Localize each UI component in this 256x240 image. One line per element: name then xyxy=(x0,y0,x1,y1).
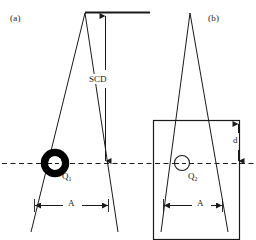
q2-point-label: Q2 xyxy=(188,171,198,181)
panel-label-a: (a) xyxy=(10,13,21,23)
panel-label-b: (b) xyxy=(208,13,219,23)
scd-dimension-label: SCD xyxy=(88,74,108,84)
q2-symbol: Q xyxy=(188,171,195,181)
beam-edge-left-b xyxy=(161,13,190,232)
figure-canvas: (a) (b) SCD d A A Q1 Q2 xyxy=(0,0,256,240)
beam-edge-right-a xyxy=(85,13,118,232)
diagram-svg xyxy=(0,0,256,240)
field-size-label-b: A xyxy=(196,198,205,208)
q1-symbol: Q xyxy=(62,171,69,181)
q1-subscript: 1 xyxy=(69,176,72,182)
q1-point-label: Q1 xyxy=(62,171,72,181)
field-size-label-a: A xyxy=(67,198,76,208)
depth-dimension-label: d xyxy=(232,135,239,145)
q2-subscript: 2 xyxy=(195,176,198,182)
beam-edge-left-a xyxy=(31,13,85,232)
